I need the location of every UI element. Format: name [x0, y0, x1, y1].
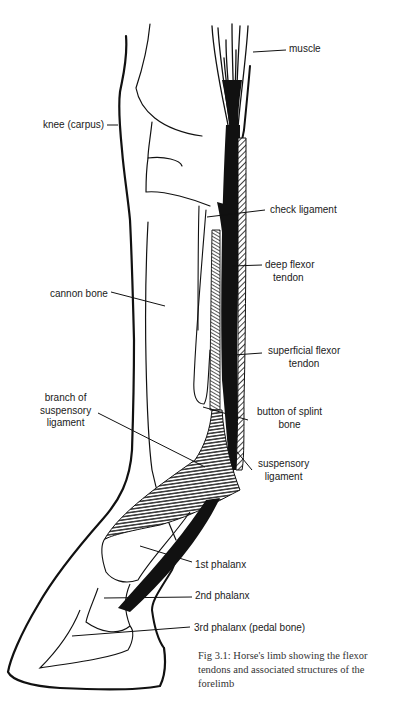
label-knee: knee (carpus) [43, 119, 104, 132]
splint-bone [194, 210, 210, 404]
leader-p3 [72, 627, 190, 636]
label-branch-line3: ligament [40, 417, 91, 430]
label-superficial-flexor-line1: superficial flexor [268, 345, 340, 358]
leader-muscle [253, 50, 286, 52]
suspensory-branch [104, 410, 240, 540]
label-3rd-phalanx: 3rd phalanx (pedal bone) [194, 622, 305, 635]
label-suspensory-line1: suspensory [258, 458, 309, 471]
label-button-line2: bone [257, 419, 322, 432]
label-branch-line1: branch of [40, 392, 91, 405]
label-branch-suspensory: branch of suspensory ligament [40, 392, 91, 430]
label-button-line1: button of splint [257, 406, 322, 419]
label-superficial-flexor-line2: tendon [268, 358, 340, 371]
horse-limb-illustration [0, 0, 402, 714]
leader-branch [98, 413, 205, 467]
label-button-splint: button of splint bone [257, 406, 322, 431]
superficial-flexor-tendon [236, 138, 246, 470]
carpus-row1 [148, 122, 182, 166]
label-cannon-bone: cannon bone [50, 288, 108, 301]
suspensory-ligament-shape [210, 230, 220, 410]
label-branch-line2: suspensory [40, 405, 91, 418]
label-suspensory-line2: ligament [258, 471, 309, 484]
carpus-upper [136, 24, 202, 136]
label-1st-phalanx: 1st phalanx [195, 559, 246, 572]
label-deep-flexor-line1: deep flexor [265, 259, 314, 272]
label-deep-flexor: deep flexor tendon [265, 259, 314, 284]
label-deep-flexor-line2: tendon [265, 272, 314, 285]
label-superficial-flexor: superficial flexor tendon [268, 345, 340, 370]
leader-p2 [104, 597, 192, 598]
label-check-ligament: check ligament [270, 204, 337, 217]
leader-cannon [111, 292, 165, 306]
label-suspensory: suspensory ligament [258, 458, 309, 483]
label-2nd-phalanx: 2nd phalanx [195, 590, 250, 603]
label-muscle: muscle [289, 43, 321, 56]
figure-caption: Fig 3.1: Horse's limb showing the flexor… [198, 649, 398, 691]
carpus-row2 [146, 158, 210, 206]
